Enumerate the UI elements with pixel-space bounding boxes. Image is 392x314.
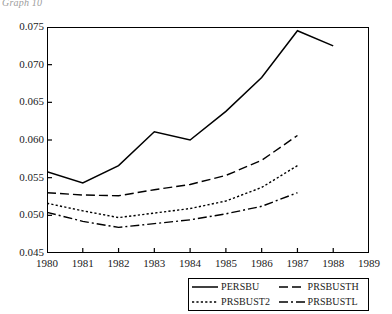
legend-item-persbu: PERSBU [192,282,279,292]
legend-label: PRSBUST2 [221,297,270,307]
legend-item-prsbusth: PRSBUSTH [279,282,366,292]
y-tick-label: 0.065 [2,96,44,107]
x-axis-tick-labels: 1980198119821983198419851986198719881989 [0,257,392,271]
legend-swatch-dotted [192,298,218,306]
y-tick-label: 0.075 [2,21,44,32]
y-tick-label: 0.070 [2,59,44,70]
legend-item-prsbustl: PRSBUSTL [279,297,366,307]
series-line-prsbust2 [47,166,297,218]
x-tick-label: 1989 [347,257,391,269]
y-tick-label: 0.060 [2,134,44,145]
legend-swatch-dashdot [279,298,305,306]
legend-swatch-dashed [279,283,305,291]
legend-swatch-solid [192,283,218,291]
legend-label: PRSBUSTL [308,297,358,307]
legend-label: PRSBUSTH [308,282,359,292]
legend-label: PERSBU [221,282,259,292]
chart-lines [47,27,369,253]
chart-legend: PERSBUPRSBUSTHPRSBUST2PRSBUSTL [188,278,369,311]
y-tick-label: 0.050 [2,209,44,220]
series-line-prsbustl [47,193,297,228]
series-line-prsbusth [47,135,297,195]
y-tick-label: 0.055 [2,172,44,183]
series-line-persbu [47,31,333,183]
legend-item-prsbust2: PRSBUST2 [192,297,279,307]
chart-plot-area [47,27,369,253]
